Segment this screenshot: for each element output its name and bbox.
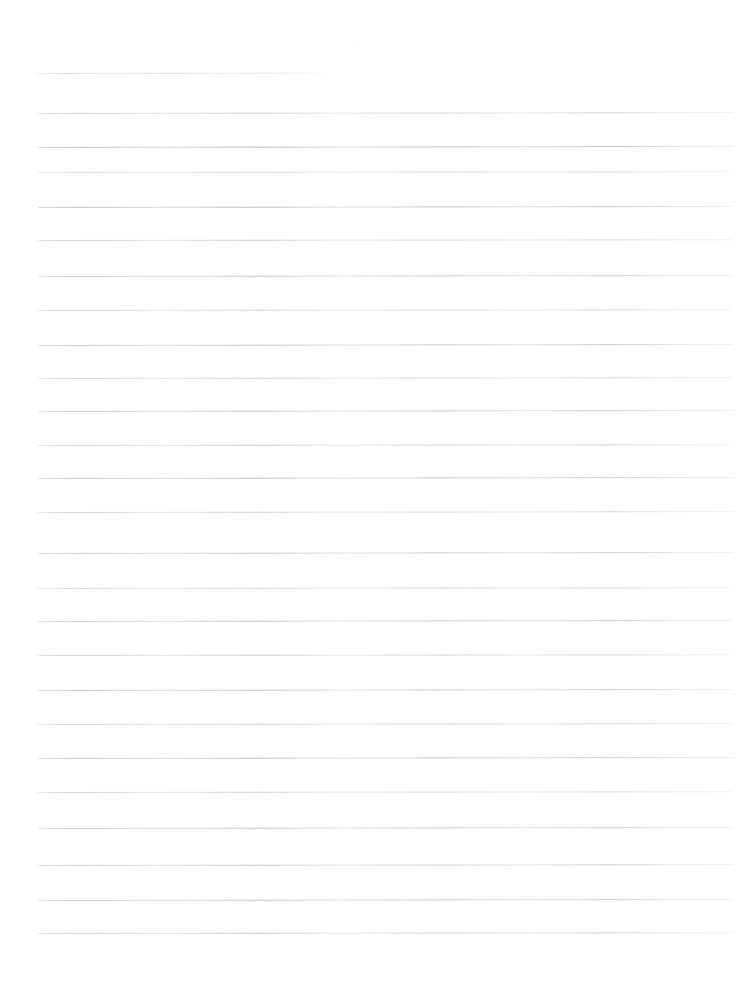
rule-line xyxy=(38,827,733,829)
rule-line xyxy=(38,791,733,793)
rule-line xyxy=(38,587,733,589)
rule-line xyxy=(38,206,733,208)
rule-line xyxy=(38,377,733,379)
rule-line xyxy=(38,309,733,311)
rule-line xyxy=(38,146,733,148)
rule-line xyxy=(38,73,331,74)
rule-line xyxy=(38,552,733,554)
rule-line xyxy=(38,112,733,114)
rule-line xyxy=(38,444,733,446)
rule-line xyxy=(38,932,733,934)
rule-line xyxy=(38,477,733,479)
rule-line xyxy=(38,344,733,346)
rule-line xyxy=(38,511,733,513)
rule-line xyxy=(38,171,733,173)
scanned-page xyxy=(0,0,749,987)
rule-line xyxy=(38,239,733,241)
rule-line xyxy=(38,654,733,656)
rule-line xyxy=(38,757,733,759)
rule-line xyxy=(38,410,733,412)
rule-line xyxy=(38,723,733,725)
rule-line xyxy=(38,864,733,866)
rule-line xyxy=(38,899,733,901)
rule-lines-layer xyxy=(0,0,749,987)
rule-line xyxy=(38,620,733,622)
rule-line xyxy=(38,275,733,277)
scan-speck xyxy=(352,42,355,45)
rule-line xyxy=(38,689,733,691)
